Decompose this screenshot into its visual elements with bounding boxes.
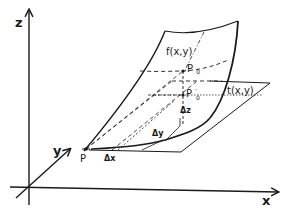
x-axis [10,187,278,192]
point-p0prime-sub: 0 [196,94,200,101]
tangent-plane-label: t(x,y) [227,85,254,96]
dashed-line-p-to-plane [86,81,172,149]
surface-bottom-curve [91,118,210,149]
point-p0prime [181,93,184,96]
surface-dashed-curve-p0 [140,60,228,71]
surface-right-edge [210,21,238,118]
surface-label: f(x,y) [166,46,192,57]
y-axis-label: y [53,143,62,158]
dashed-line-low [118,100,175,150]
vertical-lines [142,71,183,150]
y-axis [16,149,70,198]
axes: z x y [10,10,278,208]
point-p0prime-label: P ′ 0 [186,85,200,101]
delta-y-label: Δy [152,129,164,138]
surface-tangent-plane-diagram: z x y [0,0,289,215]
labels: f(x,y) t(x,y) P P 0 P ′ 0 Δz Δy Δx [80,46,254,164]
x-axis-label: x [262,193,271,208]
surface-top-edge [165,21,238,33]
dy-line [142,140,163,150]
point-p0-sub: 0 [196,68,200,75]
point-p-label: P [80,153,86,164]
point-p0 [181,69,184,72]
delta-z-label: Δz [180,106,191,115]
point-p0-label: P 0 [187,63,200,75]
point-p0-letter: P [187,63,193,74]
point-p0prime-letter: P [186,88,192,99]
z-axis-label: z [15,15,23,30]
delta-x-label: Δx [104,154,116,163]
